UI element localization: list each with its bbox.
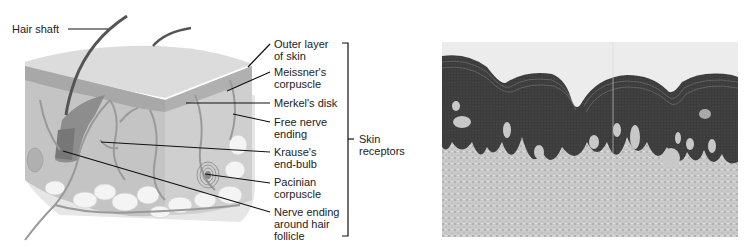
label-line: receptors — [359, 145, 405, 157]
label-line: Outer layer — [274, 38, 328, 50]
label-outer-layer: Outer layer of skin — [274, 38, 328, 62]
label-line: around hair — [274, 218, 339, 230]
label-merkel: Merkel's disk — [274, 97, 337, 109]
label-line: Nerve ending — [274, 206, 339, 218]
label-line: Free nerve — [274, 116, 327, 128]
label-pacinian: Pacinian corpuscle — [274, 176, 321, 200]
figure: Hair shaft Outer layer of skin Meissner'… — [0, 0, 749, 247]
label-line: Krause's — [274, 146, 317, 158]
label-free-nerve: Free nerve ending — [274, 116, 327, 140]
micrograph-image — [442, 42, 738, 237]
label-line: follicle — [274, 230, 339, 242]
label-line: Pacinian — [274, 176, 321, 188]
label-line: corpuscle — [274, 188, 321, 200]
label-text: Hair shaft — [12, 23, 59, 35]
label-line: of skin — [274, 50, 328, 62]
label-hair-follicle: Nerve ending around hair follicle — [274, 206, 339, 242]
label-meissner: Meissner's corpuscle — [274, 66, 326, 90]
label-line: Meissner's — [274, 66, 326, 78]
skin-micrograph — [442, 42, 738, 237]
label-line: Skin — [359, 133, 405, 145]
label-line: Merkel's disk — [274, 97, 337, 109]
label-krause: Krause's end-bulb — [274, 146, 317, 170]
label-hair-shaft: Hair shaft — [12, 23, 59, 35]
label-skin-receptors: Skin receptors — [359, 133, 405, 157]
skin-diagram — [0, 0, 430, 247]
label-line: end-bulb — [274, 158, 317, 170]
label-line: ending — [274, 128, 327, 140]
label-line: corpuscle — [274, 78, 326, 90]
